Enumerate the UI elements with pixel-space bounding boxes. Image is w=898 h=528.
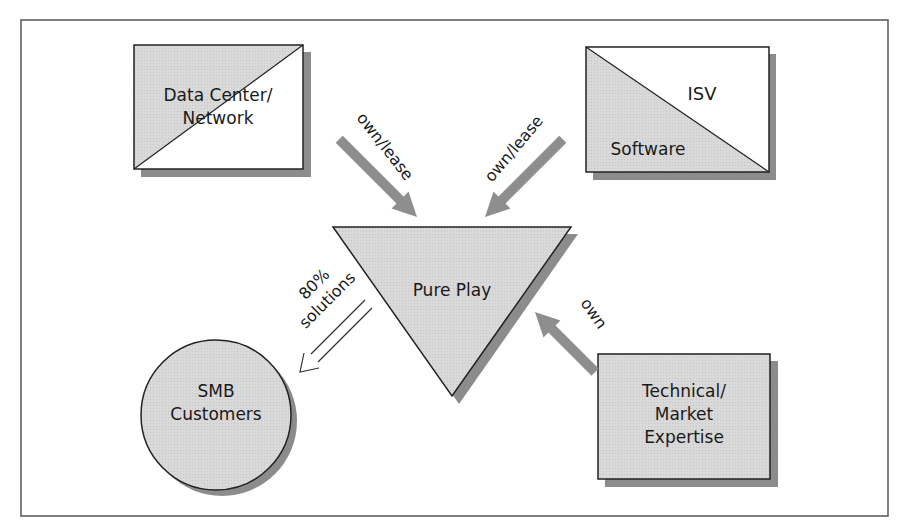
node-data-center: Data Center/ Network <box>134 45 311 177</box>
node-isv: ISV Software <box>586 47 776 180</box>
node-expertise: Technical/ Market Expertise <box>598 354 778 487</box>
edge-data-center-to-pure-play: own/lease <box>331 109 426 226</box>
node-smb-customers: SMB Customers <box>141 340 297 496</box>
node-label: Customers <box>170 404 262 424</box>
edge-label: own/lease <box>353 109 418 184</box>
edge-isv-to-pure-play: own/lease <box>477 112 572 226</box>
node-label-upper: ISV <box>687 83 717 104</box>
node-label: Pure Play <box>413 280 492 300</box>
edge-label: own <box>577 294 612 332</box>
edge-label: own/lease <box>481 112 547 186</box>
node-label: Network <box>183 108 254 128</box>
node-label: Market <box>655 404 714 424</box>
node-label: Technical/ <box>641 381 726 401</box>
node-label: SMB <box>197 381 234 401</box>
node-label: Expertise <box>644 427 724 447</box>
node-label-lower: Software <box>611 139 686 159</box>
diagram-canvas: Data Center/ Network ISV Software Techni… <box>0 0 898 528</box>
edge-pure-play-to-smb: 80% solutions <box>295 265 372 372</box>
node-label: Data Center/ <box>164 85 273 105</box>
